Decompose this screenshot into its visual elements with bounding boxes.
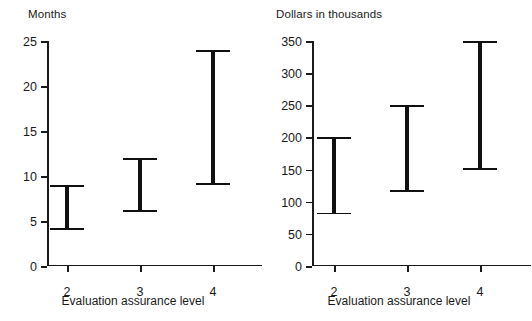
x-tick-4: 4 xyxy=(480,266,482,272)
y-tick-label-350: 350 xyxy=(281,36,302,49)
range-bar-eal3 xyxy=(123,158,157,212)
x-axis-label-months: Evaluation assurance level xyxy=(0,294,266,308)
y-tick-300: 300 xyxy=(306,73,312,75)
range-bar-eal3 xyxy=(390,105,424,192)
y-tick-0: 0 xyxy=(41,266,47,268)
range-bar-eal2-low-cap xyxy=(317,213,351,215)
chart-panel-dollars: Dollars in thousands 0 50 100 150 200 25… xyxy=(266,0,532,321)
x-tick-4: 4 xyxy=(213,266,215,272)
y-tick-label-5: 5 xyxy=(30,216,37,229)
y-tick-20: 20 xyxy=(41,86,47,88)
range-bar-eal4-stem xyxy=(211,50,214,185)
x-tick-2: 2 xyxy=(334,266,336,272)
y-tick-250: 250 xyxy=(306,105,312,107)
y-tick-0: 0 xyxy=(306,266,312,268)
x-tick-2: 2 xyxy=(67,266,69,272)
y-tick-10: 10 xyxy=(41,176,47,178)
y-tick-label-0: 0 xyxy=(30,261,37,274)
range-bar-eal4 xyxy=(463,41,497,170)
y-tick-label-50: 50 xyxy=(288,229,302,242)
y-tick-label-150: 150 xyxy=(281,164,302,177)
range-bar-eal3-stem xyxy=(138,158,141,212)
plot-area-dollars: 0 50 100 150 200 250 300 350 xyxy=(312,41,521,266)
y-axis-title-months: Months xyxy=(28,8,66,21)
range-bar-eal3-stem xyxy=(405,105,408,192)
figure-container: Months 0 5 10 15 20 25 xyxy=(0,0,532,321)
range-bar-eal2 xyxy=(50,185,84,230)
y-axis-line xyxy=(47,41,49,266)
y-tick-label-15: 15 xyxy=(23,126,37,139)
range-bar-eal4 xyxy=(196,50,230,185)
x-axis-line xyxy=(312,265,531,267)
chart-panel-months: Months 0 5 10 15 20 25 xyxy=(0,0,266,321)
y-tick-150: 150 xyxy=(306,170,312,172)
y-axis-title-dollars: Dollars in thousands xyxy=(276,8,382,21)
y-tick-label-20: 20 xyxy=(23,81,37,94)
range-bar-eal3-low-cap xyxy=(390,190,424,192)
y-tick-15: 15 xyxy=(41,131,47,133)
y-tick-label-0: 0 xyxy=(295,261,302,274)
y-tick-5: 5 xyxy=(41,221,47,223)
range-bar-eal2-low-cap xyxy=(50,228,84,230)
range-bar-eal4-low-cap xyxy=(463,168,497,170)
y-tick-350: 350 xyxy=(306,41,312,43)
x-tick-3: 3 xyxy=(140,266,142,272)
x-axis-line xyxy=(47,265,262,267)
plot-area-months: 0 5 10 15 20 25 2 3 xyxy=(47,41,252,266)
range-bar-eal4-low-cap xyxy=(196,183,230,185)
range-bar-eal2 xyxy=(317,137,351,214)
y-tick-label-10: 10 xyxy=(23,171,37,184)
range-bar-eal3-low-cap xyxy=(123,210,157,212)
y-tick-100: 100 xyxy=(306,202,312,204)
x-axis-label-dollars: Evaluation assurance level xyxy=(266,294,532,308)
y-tick-label-300: 300 xyxy=(281,68,302,81)
y-tick-label-25: 25 xyxy=(23,36,37,49)
y-tick-label-100: 100 xyxy=(281,196,302,209)
range-bar-eal2-stem xyxy=(65,185,68,230)
y-tick-50: 50 xyxy=(306,234,312,236)
y-tick-label-200: 200 xyxy=(281,132,302,145)
x-tick-3: 3 xyxy=(407,266,409,272)
y-tick-label-250: 250 xyxy=(281,100,302,113)
y-tick-200: 200 xyxy=(306,137,312,139)
range-bar-eal4-stem xyxy=(478,41,481,170)
y-tick-25: 25 xyxy=(41,41,47,43)
range-bar-eal2-stem xyxy=(332,137,335,214)
y-axis-line xyxy=(312,41,314,266)
